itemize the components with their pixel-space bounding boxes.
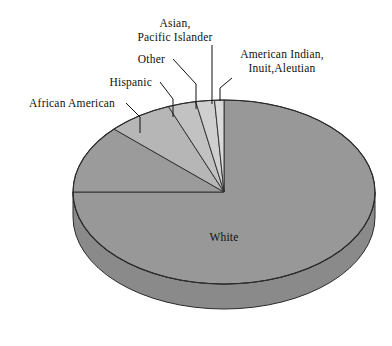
pie-slices	[73, 100, 375, 284]
label-african-american: African American	[29, 97, 115, 109]
label-other: Other	[138, 53, 165, 65]
label-american-indian-inuit-aleutian: American Indian,	[240, 48, 324, 61]
pie-chart-figure: WhiteAfrican AmericanHispanicOtherAsian,…	[0, 0, 392, 346]
label-asian-pacific-islander: Asian,	[160, 17, 191, 30]
label-white: White	[209, 231, 238, 243]
leader-line-american-indian-inuit-aleutian	[220, 78, 232, 101]
pie-chart-svg: WhiteAfrican AmericanHispanicOtherAsian,…	[0, 0, 392, 346]
label-american-indian-inuit-aleutian-line2: Inuit,Aleutian	[249, 62, 316, 75]
label-asian-pacific-islander-line2: Pacific Islander	[137, 31, 212, 43]
label-hispanic: Hispanic	[110, 76, 152, 89]
